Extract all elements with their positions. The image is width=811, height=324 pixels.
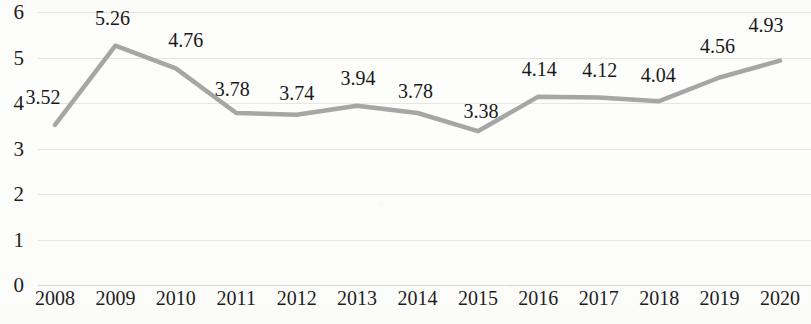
data-point-label: 3.52 bbox=[26, 87, 61, 107]
data-point-label: 5.26 bbox=[95, 8, 130, 28]
data-point-label: 4.12 bbox=[582, 60, 617, 80]
data-point-label: 3.78 bbox=[215, 79, 250, 99]
series-line-plot bbox=[0, 0, 811, 324]
data-point-label: 4.14 bbox=[522, 59, 557, 79]
data-point-label: 4.56 bbox=[700, 36, 735, 56]
data-point-label: 3.38 bbox=[463, 101, 498, 121]
data-point-label: 4.76 bbox=[168, 30, 203, 50]
data-point-label: 3.94 bbox=[341, 68, 376, 88]
data-point-label: 3.74 bbox=[279, 83, 314, 103]
data-point-label: 3.78 bbox=[398, 81, 433, 101]
line-chart: 0123456 3.525.264.763.783.743.943.783.38… bbox=[0, 0, 811, 324]
data-point-label: 4.93 bbox=[749, 15, 784, 35]
data-point-label: 4.04 bbox=[641, 65, 676, 85]
